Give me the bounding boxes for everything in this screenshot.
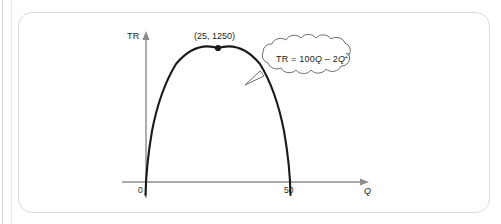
revenue-formula-text: TR = 100Q – 2Q2 [276,53,349,64]
vertex-point-marker [215,45,221,51]
formula-middle: – 2 [322,54,338,64]
x-tick-label-origin: 0 [138,186,143,195]
formula-prefix: TR = 100 [276,54,315,64]
formula-variable-q2: Q [338,54,345,64]
y-axis-arrow-icon [142,31,149,40]
x-tick-label-50: 50 [284,186,293,195]
total-revenue-curve [146,46,291,195]
y-axis-label: TR [127,32,140,41]
formula-variable-q1: Q [315,54,322,64]
formula-exponent: 2 [345,52,349,59]
callout-tail [245,71,264,85]
x-axis-label: Q [364,187,371,196]
vertex-coordinate-label: (25, 1250) [194,32,235,41]
screenshot-root: TR Q 0 50 (25, 1250) TR = 100Q – 2Q2 [0,0,501,224]
total-revenue-chart [0,0,501,224]
x-axis-arrow-icon [360,178,369,185]
